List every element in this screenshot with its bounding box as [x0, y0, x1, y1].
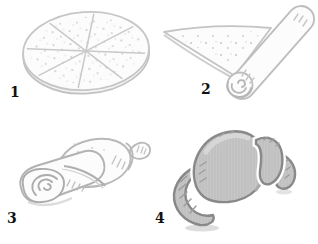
panel-wedge-and-roll [158, 4, 318, 110]
step-number-3: 3 [7, 211, 17, 225]
panel-rolled-log [8, 128, 158, 220]
rolled-log-illustration [8, 128, 158, 220]
dough-disc [20, 8, 151, 98]
croissant-steps-figure: 1 2 3 4 [0, 0, 318, 244]
step-number-2: 2 [201, 82, 211, 96]
panel-baked-croissant [160, 122, 318, 240]
dough-wedge-illustration [158, 4, 318, 110]
croissant [174, 131, 295, 232]
dough-disc-illustration [0, 0, 158, 116]
panel-dough-disc [0, 0, 158, 116]
step-number-4: 4 [155, 211, 165, 225]
step-number-1: 1 [10, 85, 20, 99]
rolled-log [20, 139, 150, 205]
baked-croissant-illustration [160, 122, 318, 240]
